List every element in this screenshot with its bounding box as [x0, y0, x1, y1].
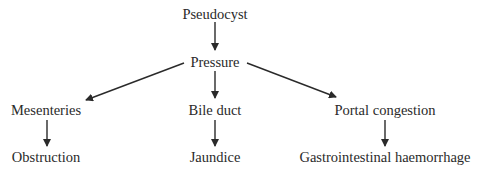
node-bile-duct: Bile duct [189, 103, 242, 118]
node-pseudocyst: Pseudocyst [182, 7, 247, 22]
node-portal-congestion: Portal congestion [334, 103, 435, 118]
arrow-pressure-to-portal-congestion [247, 63, 336, 97]
arrow-pressure-to-mesenteries [86, 63, 184, 100]
node-obstruction: Obstruction [12, 150, 80, 165]
node-jaundice: Jaundice [190, 150, 241, 165]
node-mesenteries: Mesenteries [11, 103, 81, 118]
node-pressure: Pressure [190, 55, 239, 70]
node-gi-haemorrhage: Gastrointestinal haemorrhage [299, 150, 470, 165]
diagram-edges [0, 0, 478, 173]
